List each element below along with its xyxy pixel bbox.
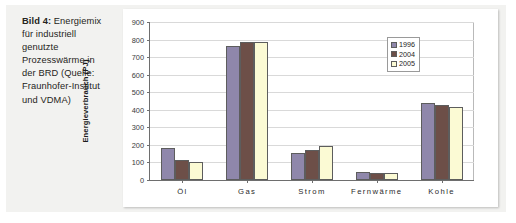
x-axis-tick-mark	[247, 180, 248, 183]
legend-swatch-icon	[391, 51, 397, 57]
x-axis-tick-mark	[182, 180, 183, 183]
y-axis-tick-label: 700	[118, 53, 144, 62]
bar-1996-Kohle[interactable]	[421, 103, 435, 180]
chart-legend: 199620042005	[387, 37, 420, 72]
x-axis-tick-label: Gas	[215, 187, 280, 196]
x-axis-tick-label: Öl	[150, 187, 215, 196]
bar-2005-Öl[interactable]	[189, 162, 203, 180]
bar-group: Strom	[280, 22, 345, 180]
y-axis-tick-mark	[147, 180, 150, 181]
bar-2005-Strom[interactable]	[319, 146, 333, 180]
legend-label: 1996	[399, 41, 415, 48]
y-axis-tick-label: 400	[118, 105, 144, 114]
bar-2005-Gas[interactable]	[254, 42, 268, 180]
y-axis-tick-label: 300	[118, 123, 144, 132]
bar-2004-Öl[interactable]	[175, 160, 189, 180]
y-axis-tick-label: 500	[118, 88, 144, 97]
x-axis-tick-label: Fernwärme	[344, 187, 409, 196]
bar-1996-Strom[interactable]	[291, 153, 305, 180]
bar-1996-Öl[interactable]	[161, 148, 175, 180]
figure-caption-label: Bild 4:	[22, 16, 51, 26]
plot-area: Energieverbrauch (PJ) 010020030040050060…	[149, 22, 474, 181]
legend-swatch-icon	[391, 61, 397, 67]
bar-2004-Fernwärme[interactable]	[370, 173, 384, 180]
bar-2005-Kohle[interactable]	[449, 107, 463, 180]
legend-label: 2005	[399, 60, 415, 67]
bar-1996-Gas[interactable]	[226, 46, 240, 180]
x-axis-tick-label: Kohle	[409, 187, 474, 196]
y-axis-tick-label: 0	[118, 176, 144, 185]
bar-2004-Gas[interactable]	[240, 42, 254, 180]
y-axis-tick-label: 900	[118, 18, 144, 27]
legend-item-2004[interactable]: 2004	[391, 51, 415, 58]
y-axis-tick-label: 200	[118, 140, 144, 149]
legend-item-2005[interactable]: 2005	[391, 60, 415, 67]
x-axis-tick-mark	[312, 180, 313, 183]
legend-swatch-icon	[391, 42, 397, 48]
bar-2005-Fernwärme[interactable]	[384, 173, 398, 180]
x-axis-tick-mark	[377, 180, 378, 183]
y-axis-title: Energieverbrauch (PJ)	[81, 59, 90, 142]
bar-2004-Kohle[interactable]	[435, 105, 449, 180]
x-axis-tick-label: Strom	[280, 187, 345, 196]
bar-2004-Strom[interactable]	[305, 150, 319, 180]
screenshot-root: Bild 4: Energiemix für industriell genut…	[0, 0, 516, 223]
bar-groups: ÖlGasStromFernwärmeKohle	[150, 22, 474, 180]
y-axis-tick-label: 600	[118, 70, 144, 79]
bar-group: Gas	[215, 22, 280, 180]
figure-caption: Bild 4: Energiemix für industriell genut…	[22, 15, 106, 107]
y-axis-tick-label: 100	[118, 158, 144, 167]
bar-1996-Fernwärme[interactable]	[356, 172, 370, 180]
bar-group: Öl	[150, 22, 215, 180]
y-axis-tick-label: 800	[118, 35, 144, 44]
chart-card: Energieverbrauch (PJ) 010020030040050060…	[123, 9, 498, 207]
x-axis-tick-mark	[442, 180, 443, 183]
legend-item-1996[interactable]: 1996	[391, 41, 415, 48]
legend-label: 2004	[399, 51, 415, 58]
